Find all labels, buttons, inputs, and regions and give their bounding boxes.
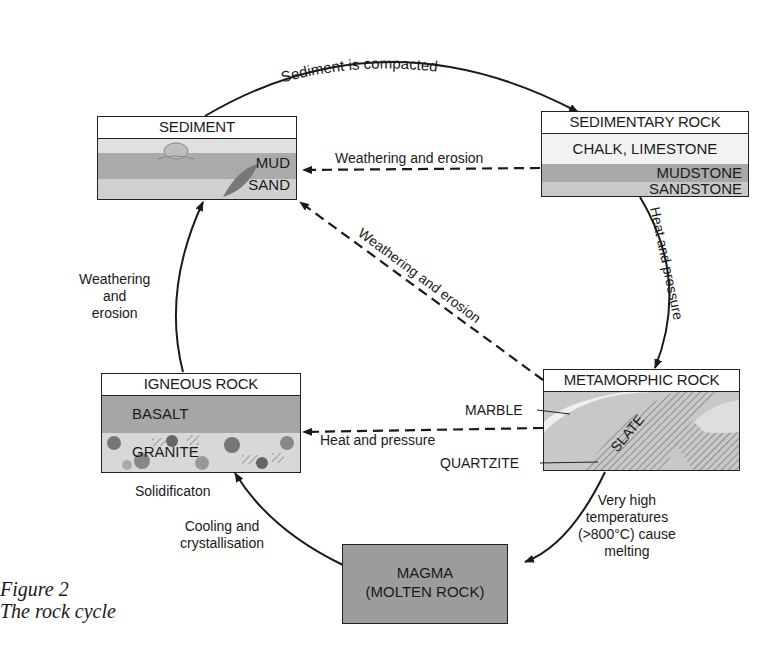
magma-line1: MAGMA [343,563,507,582]
node-sedimentary-rock: SEDIMENTARY ROCK CHALK, LIMESTONE MUDSTO… [541,111,749,197]
layer-mud: MUD [256,154,290,171]
label-melting: Very high temperatures (>800°C) cause me… [578,492,676,560]
label-marble: MARBLE [465,402,523,419]
layer-basalt: BASALT [132,405,188,422]
magma-line2: (MOLTEN ROCK) [343,582,507,601]
node-magma: MAGMA (MOLTEN ROCK) [342,544,508,624]
label-heat-pressure-right: Heat and pressure [647,205,687,321]
figure-number: Figure 2 [0,578,116,600]
arrow-weathering-sedimentary [303,168,540,170]
node-title: IGNEOUS ROCK [102,374,300,396]
layer-sandstone: SANDSTONE [649,180,742,197]
node-igneous-rock: IGNEOUS ROCK BASALT GRANITE [101,373,301,473]
node-sediment: SEDIMENT MUD SAND [97,116,297,200]
label-weathering-diagonal: Weathering and erosion [355,225,484,327]
label-compaction: Sediment is compacted [279,54,439,85]
label-cooling: Cooling and crystallisation [180,518,264,552]
layer-granite: GRANITE [132,443,199,460]
figure-caption: Figure 2 The rock cycle [0,578,116,622]
layer-mudstone: MUDSTONE [656,164,742,181]
label-solidification: Solidificaton [135,483,211,500]
figure-title: The rock cycle [0,600,116,622]
label-quartzite: QUARTZITE [440,455,519,472]
label-weathering-left: Weathering and erosion [79,271,150,322]
node-title: METAMORPHIC ROCK [544,370,739,392]
node-title: SEDIMENT [98,117,296,139]
label-heat-pressure-igneous: Heat and pressure [320,432,435,449]
node-title: SEDIMENTARY ROCK [542,112,748,134]
metamorphic-texture [544,392,740,471]
layer-chalk-limestone: CHALK, LIMESTONE [542,140,748,157]
layer-sand: SAND [248,176,290,193]
node-metamorphic-rock: METAMORPHIC ROCK SLATE [543,369,740,471]
label-weathering-top: Weathering and erosion [335,150,483,167]
arrow-weathering-left [176,202,203,372]
arrow-weathering-metamorphic [300,202,543,380]
